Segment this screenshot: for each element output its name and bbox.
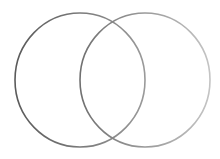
venn-svg [0,0,220,159]
venn-diagram [0,0,220,159]
